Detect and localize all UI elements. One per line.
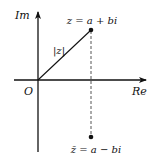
origin-label: O <box>24 85 33 98</box>
complex-plane-diagram: Im Re O z = a + bi |z| z̄ = a − bi <box>0 0 150 166</box>
modulus-label: |z| <box>53 45 65 57</box>
real-axis-label: Re <box>131 85 147 98</box>
conjugate-label: z̄ = a − bi <box>70 144 121 155</box>
imaginary-axis-label: Im <box>14 9 30 22</box>
point-z <box>89 28 94 33</box>
point-conjugate <box>89 135 94 140</box>
point-z-label: z = a + bi <box>66 15 117 26</box>
